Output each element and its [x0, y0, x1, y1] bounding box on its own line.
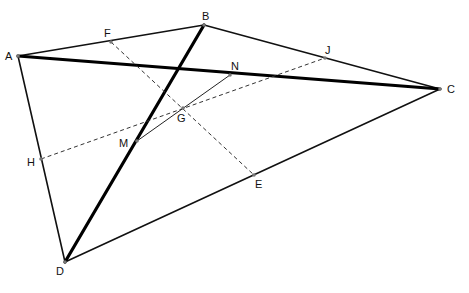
point-b: [202, 23, 206, 27]
point-label-f: F: [104, 27, 111, 39]
point-label-n: N: [231, 60, 239, 72]
point-label-d: D: [56, 265, 64, 277]
point-c: [438, 87, 442, 91]
point-a: [16, 54, 20, 58]
point-m: [135, 139, 139, 143]
point-g: [181, 106, 185, 110]
point-label-h: H: [27, 156, 35, 168]
point-j: [323, 56, 327, 60]
segments-layer: [18, 25, 440, 262]
point-d: [63, 260, 67, 264]
labels-layer: ABCDFJNGMHE: [5, 10, 455, 277]
point-label-c: C: [447, 83, 455, 95]
point-label-e: E: [255, 178, 262, 190]
point-label-m: M: [119, 137, 128, 149]
point-label-b: B: [202, 10, 209, 22]
geometry-diagram: ABCDFJNGMHE: [0, 0, 469, 293]
point-label-j: J: [325, 44, 331, 56]
point-label-g: G: [177, 112, 186, 124]
point-n: [228, 73, 232, 77]
point-label-a: A: [5, 50, 13, 62]
point-e: [252, 173, 256, 177]
point-f: [109, 40, 113, 44]
point-h: [39, 157, 43, 161]
